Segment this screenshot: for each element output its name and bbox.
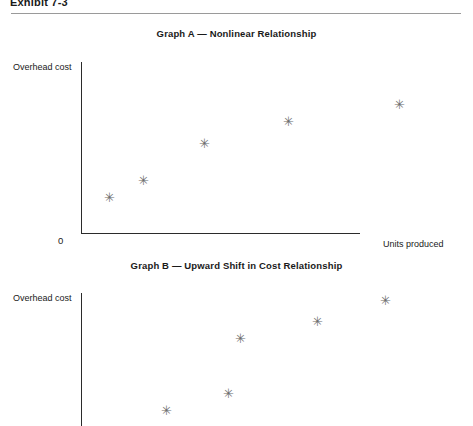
graph-a-x-axis <box>81 233 360 234</box>
data-point: ✳ <box>312 315 323 328</box>
header-divider <box>11 13 461 14</box>
graph-b-y-axis <box>81 293 82 426</box>
graph-b-y-axis-label: Overhead cost <box>13 292 77 304</box>
data-point: ✳ <box>138 174 149 187</box>
data-point: ✳ <box>223 387 234 400</box>
data-point: ✳ <box>283 115 294 128</box>
data-point: ✳ <box>380 294 391 307</box>
graph-a-container: Graph A — Nonlinear Relationship Overhea… <box>0 28 473 260</box>
graph-a-x-axis-label: Units produced <box>383 239 444 249</box>
graph-a-y-axis <box>81 62 82 233</box>
data-point: ✳ <box>199 137 210 150</box>
graph-b-container: Graph B — Upward Shift in Cost Relations… <box>0 260 473 426</box>
data-point: ✳ <box>235 332 246 345</box>
graph-a-origin-label: 0 <box>58 235 63 246</box>
exhibit-label: Exhibit 7-3 <box>10 0 68 8</box>
graph-a-title: Graph A — Nonlinear Relationship <box>0 28 473 39</box>
graph-a-y-axis-label: Overhead cost <box>13 61 77 73</box>
data-point: ✳ <box>161 404 172 417</box>
data-point: ✳ <box>394 98 405 111</box>
graph-b-title: Graph B — Upward Shift in Cost Relations… <box>0 260 473 271</box>
data-point: ✳ <box>104 191 115 204</box>
